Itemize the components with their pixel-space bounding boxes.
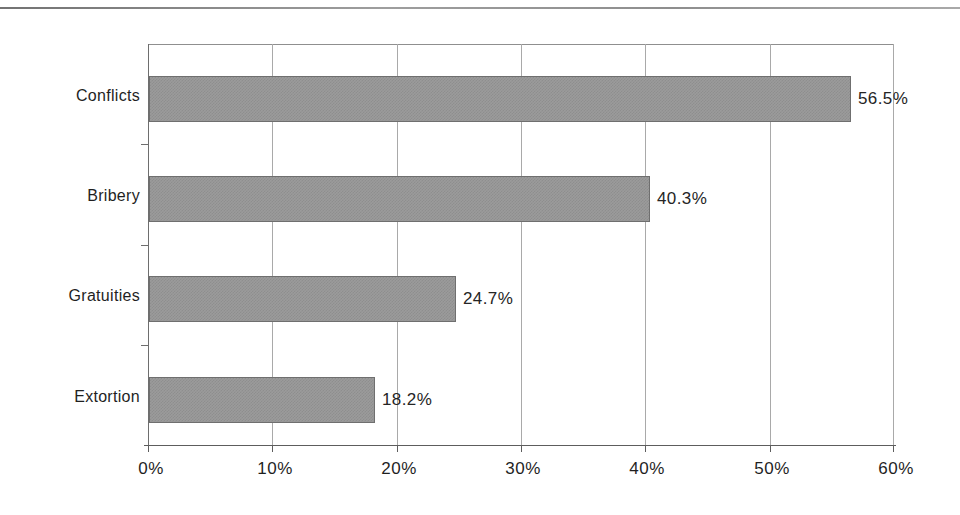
x-axis-tick-60 <box>893 445 894 452</box>
plot-area: 56.5% 40.3% 24.7% 18.2% <box>148 44 894 445</box>
x-axis-tick-label-40: 40% <box>629 459 665 479</box>
x-axis-tick-label-50: 50% <box>754 459 790 479</box>
x-axis-tick-label-0: 0% <box>138 459 164 479</box>
x-axis-tick-20 <box>397 445 398 452</box>
bar-value-conflicts: 56.5% <box>858 89 908 109</box>
bar-value-extortion: 18.2% <box>382 390 432 410</box>
x-axis-tick-10 <box>272 445 273 452</box>
bar-bribery[interactable] <box>149 176 650 222</box>
x-axis-tick-30 <box>521 445 522 452</box>
bar-value-gratuities: 24.7% <box>463 289 513 309</box>
y-axis-tick-3 <box>141 345 149 346</box>
x-axis-tick-label-10: 10% <box>257 459 293 479</box>
y-axis-label-bribery: Bribery <box>4 187 140 205</box>
x-axis-tick-0 <box>148 445 149 452</box>
x-axis-tick-label-60: 60% <box>878 459 914 479</box>
x-axis-tick-50 <box>770 445 771 452</box>
y-axis-label-extortion: Extortion <box>4 388 140 406</box>
y-axis-tick-1 <box>141 144 149 145</box>
bar-conflicts[interactable] <box>149 76 851 122</box>
y-axis-label-gratuities: Gratuities <box>4 287 140 305</box>
bar-value-bribery: 40.3% <box>657 189 707 209</box>
x-axis-line <box>144 445 896 446</box>
y-axis-tick-2 <box>141 245 149 246</box>
x-axis-tick-40 <box>645 445 646 452</box>
bar-extortion[interactable] <box>149 377 375 423</box>
chart-page: Conflicts Bribery Gratuities Extortion <box>0 0 960 515</box>
x-axis-tick-label-30: 30% <box>505 459 541 479</box>
y-axis-category-labels: Conflicts Bribery Gratuities Extortion <box>0 0 140 515</box>
bar-gratuities[interactable] <box>149 276 456 322</box>
scan-artifact-line <box>0 7 960 9</box>
x-axis-tick-label-20: 20% <box>381 459 417 479</box>
y-axis-label-conflicts: Conflicts <box>4 87 140 105</box>
